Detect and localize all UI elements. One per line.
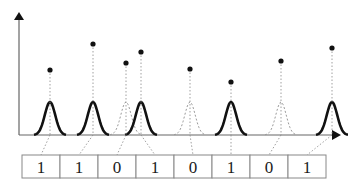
bit-value: 1 [227,158,236,177]
bit-cell: 1 [212,155,250,178]
cell-connector [307,135,332,155]
sample-dot [123,60,128,65]
pulses [34,102,348,135]
bit-cell: 0 [250,155,288,178]
cell-connector [41,135,50,155]
cell-connector [269,135,281,155]
bit-cell: 0 [98,155,136,178]
sample-dot [329,45,334,50]
bit-cell: 1 [288,155,326,178]
bit-value: 0 [113,158,122,177]
cell-connector [141,135,155,155]
cell-connector [117,135,126,155]
cell-connector [79,135,93,155]
sample-dots [47,41,334,84]
cell-connector [190,135,193,155]
bit-cell: 1 [22,155,60,178]
bit-cell: 0 [174,155,212,178]
bit-value: 1 [37,158,46,177]
connectors [41,44,332,155]
bit-value: 0 [189,158,198,177]
sample-dot [228,79,233,84]
sample-dot [90,41,95,46]
axes [14,12,341,140]
bit-cell: 1 [136,155,174,178]
x-axis-arrow-icon [332,130,341,140]
sample-dot [138,49,143,54]
bit-value: 0 [265,158,274,177]
bit-sequence: 11010101 [22,155,326,178]
pulse-diagram: 11010101 [0,0,348,188]
sample-dot [278,58,283,63]
bit-value: 1 [303,158,312,177]
bit-value: 1 [151,158,160,177]
sample-dot [47,67,52,72]
bit-cell: 1 [60,155,98,178]
y-axis-arrow-icon [14,12,24,20]
bit-value: 1 [75,158,84,177]
sample-dot [187,66,192,71]
